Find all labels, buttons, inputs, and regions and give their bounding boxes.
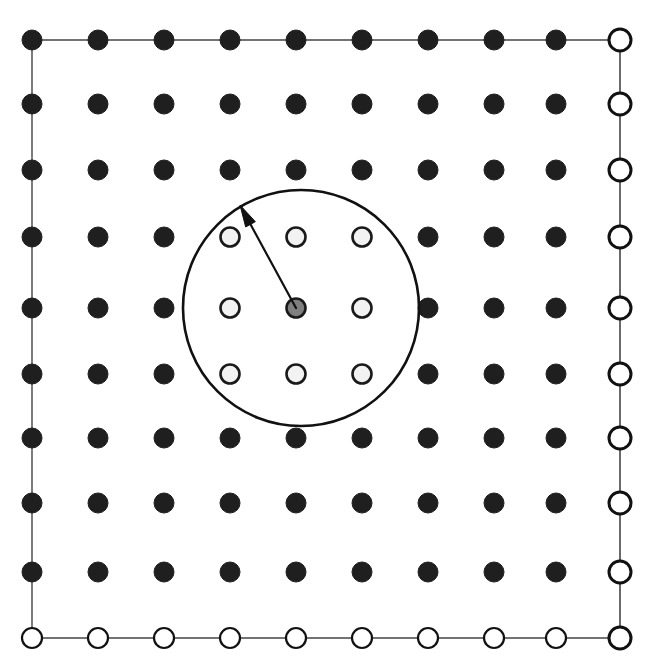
image-node (609, 627, 631, 649)
lattice-node (154, 30, 174, 50)
lattice-node (352, 428, 372, 448)
image-node (609, 561, 631, 583)
lattice-nodes-group (22, 29, 631, 649)
lattice-node (220, 30, 240, 50)
lattice-node (22, 160, 42, 180)
lattice-node (88, 364, 108, 384)
neighbor-node (353, 228, 372, 247)
arrow-head (240, 205, 255, 227)
lattice-node (546, 493, 566, 513)
neighbor-node (221, 365, 240, 384)
lattice-node (286, 428, 306, 448)
image-node (609, 427, 631, 449)
lattice-node (220, 94, 240, 114)
lattice-node (22, 562, 42, 582)
lattice-node (22, 30, 42, 50)
lattice-node (484, 94, 504, 114)
lattice-node (484, 160, 504, 180)
lattice-node (154, 493, 174, 513)
image-node (609, 363, 631, 385)
image-node (418, 628, 438, 648)
lattice-node (418, 364, 438, 384)
lattice-node (546, 30, 566, 50)
lattice-node (154, 227, 174, 247)
lattice-node (484, 562, 504, 582)
image-node (609, 29, 631, 51)
neighbor-node (287, 365, 306, 384)
lattice-node (418, 94, 438, 114)
image-node (484, 628, 504, 648)
lattice-node (484, 364, 504, 384)
lattice-node (88, 227, 108, 247)
lattice-node (484, 428, 504, 448)
lattice-diagram (0, 0, 657, 665)
lattice-node (352, 94, 372, 114)
lattice-node (546, 94, 566, 114)
periodic-boundary-lines (32, 40, 620, 638)
figure-root (0, 0, 657, 665)
image-node (220, 628, 240, 648)
lattice-node (484, 298, 504, 318)
image-node (286, 628, 306, 648)
image-node (609, 93, 631, 115)
lattice-node (286, 30, 306, 50)
lattice-node (418, 562, 438, 582)
lattice-node (88, 298, 108, 318)
lattice-node (22, 364, 42, 384)
image-node (609, 297, 631, 319)
lattice-node (286, 94, 306, 114)
lattice-node (88, 30, 108, 50)
lattice-node (546, 428, 566, 448)
image-node (154, 628, 174, 648)
lattice-node (220, 428, 240, 448)
lattice-node (154, 160, 174, 180)
lattice-node (22, 94, 42, 114)
neighbor-node (287, 228, 306, 247)
lattice-node (88, 428, 108, 448)
lattice-node (352, 493, 372, 513)
neighbor-node (353, 365, 372, 384)
lattice-node (352, 30, 372, 50)
lattice-node (88, 562, 108, 582)
neighbor-node (353, 299, 372, 318)
lattice-node (154, 94, 174, 114)
image-node (609, 226, 631, 248)
lattice-node (88, 160, 108, 180)
lattice-node (22, 493, 42, 513)
image-node (546, 628, 566, 648)
lattice-node (88, 493, 108, 513)
lattice-node (418, 298, 438, 318)
image-node (609, 492, 631, 514)
lattice-node (22, 227, 42, 247)
lattice-node (546, 562, 566, 582)
lattice-node (546, 298, 566, 318)
image-node (88, 628, 108, 648)
image-node (22, 628, 42, 648)
image-node (352, 628, 372, 648)
lattice-node (88, 94, 108, 114)
displacement-arrow-group (240, 205, 296, 308)
lattice-node (154, 364, 174, 384)
lattice-node (154, 562, 174, 582)
lattice-node (220, 493, 240, 513)
lattice-node (484, 30, 504, 50)
lattice-node (22, 428, 42, 448)
lattice-node (484, 227, 504, 247)
lattice-node (418, 160, 438, 180)
image-node (609, 159, 631, 181)
lattice-node (418, 428, 438, 448)
lattice-node (220, 160, 240, 180)
lattice-node (286, 160, 306, 180)
lattice-node (352, 160, 372, 180)
lattice-node (352, 562, 372, 582)
lattice-node (286, 562, 306, 582)
lattice-node (418, 227, 438, 247)
lattice-node (286, 493, 306, 513)
neighbor-node (221, 299, 240, 318)
lattice-node (546, 364, 566, 384)
lattice-node (546, 160, 566, 180)
lattice-node (22, 298, 42, 318)
neighbor-node (221, 228, 240, 247)
lattice-node (418, 493, 438, 513)
lattice-node (546, 227, 566, 247)
